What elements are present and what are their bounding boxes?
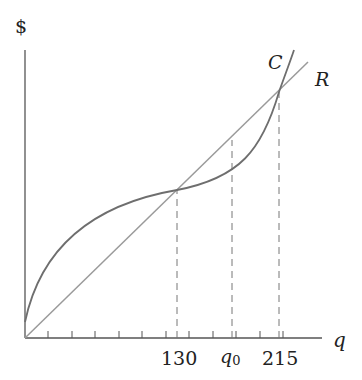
chart-canvas: $ q C R 130 q0 215 <box>0 0 362 380</box>
reference-lines <box>177 92 279 338</box>
x-axis-ticks <box>48 331 283 338</box>
curve-r-label: R <box>314 68 329 90</box>
revenue-line-r <box>25 62 308 338</box>
x-axis-label: q <box>333 328 346 352</box>
tick-label-130: 130 <box>161 347 197 369</box>
tick-label-q0-main: q <box>220 345 232 367</box>
cost-curve-c <box>25 50 294 322</box>
tick-label-q0: q0 <box>220 345 240 368</box>
tick-label-215: 215 <box>262 347 298 369</box>
y-axis-label: $ <box>15 15 27 37</box>
curve-c-label: C <box>268 51 283 73</box>
tick-label-q0-sub: 0 <box>232 353 240 368</box>
